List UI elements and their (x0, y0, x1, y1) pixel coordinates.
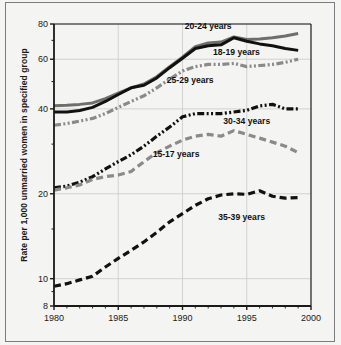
series-line-35-39-years (54, 191, 298, 286)
y-tick-label: 80 (38, 19, 48, 29)
series-label-18-19-years: 18-19 years (213, 47, 260, 57)
y-tick-label: 20 (38, 189, 48, 199)
series-line-15-17-years (54, 131, 298, 191)
y-axis-ticks: 80604020108 (38, 19, 48, 311)
x-tick-label: 1990 (172, 313, 192, 323)
x-tick-label: 1985 (108, 313, 128, 323)
x-tick-label: 1980 (44, 313, 64, 323)
series-label-20-24-years: 20-24 years (185, 21, 232, 31)
series-label-15-17-years: 15-17 years (153, 149, 200, 159)
x-tick-label: 2000 (301, 313, 321, 323)
axis-lines (50, 24, 311, 310)
x-axis-ticks: 19801985199019952000 (44, 313, 321, 323)
y-tick-label: 8 (43, 301, 48, 311)
grid-lines (54, 24, 311, 306)
x-tick-label: 1995 (237, 313, 257, 323)
series-label-30-34-years: 30-34 years (223, 116, 270, 126)
series-label-25-29-years: 25-29 years (167, 75, 214, 85)
figure-container: Rate per 1,000 unmarried women in specif… (0, 0, 341, 345)
series-label-35-39-years: 35-39 years (218, 212, 265, 222)
line-chart: 80604020108 19801985199019952000 20-24 y… (0, 0, 341, 345)
y-tick-label: 10 (38, 274, 48, 284)
y-tick-label: 60 (38, 54, 48, 64)
series-lines (54, 34, 298, 287)
y-tick-label: 40 (38, 104, 48, 114)
